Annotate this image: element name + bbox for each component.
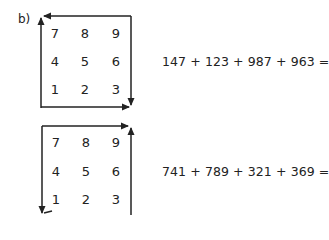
grid-digit: 4 xyxy=(49,165,63,179)
grid-digit: 3 xyxy=(109,83,123,97)
equation-2: 741 + 789 + 321 + 369 = xyxy=(162,165,329,179)
grid-digit: 9 xyxy=(109,27,123,41)
arrow-stub xyxy=(44,211,52,213)
grid-digit: 7 xyxy=(48,27,62,41)
grid-digit: 8 xyxy=(79,136,93,150)
grid-digit: 8 xyxy=(78,27,92,41)
grid-digit: 1 xyxy=(48,83,62,97)
grid-digit: 2 xyxy=(79,193,93,207)
grid-digit: 6 xyxy=(109,165,123,179)
grid-digit: 5 xyxy=(78,55,92,69)
grid-digit: 4 xyxy=(48,55,62,69)
grid-digit: 6 xyxy=(109,55,123,69)
grid-digit: 3 xyxy=(109,193,123,207)
grid-digit: 1 xyxy=(49,193,63,207)
grid-digit: 2 xyxy=(78,83,92,97)
grid-digit: 5 xyxy=(79,165,93,179)
grid-digit: 7 xyxy=(49,136,63,150)
grid-digit: 9 xyxy=(109,136,123,150)
equation-1: 147 + 123 + 987 + 963 = xyxy=(162,55,329,69)
